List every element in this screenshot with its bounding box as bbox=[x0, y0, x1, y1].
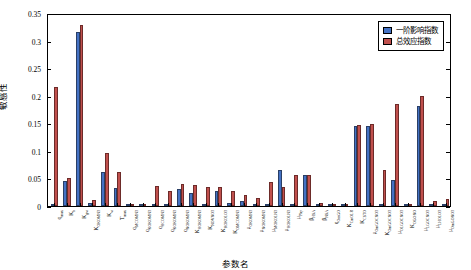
x-tick-label: μMOKOLN3 bbox=[270, 210, 278, 232]
x-tick-mark bbox=[218, 203, 219, 206]
x-tick-mark bbox=[105, 203, 106, 206]
bar-total-effect bbox=[117, 172, 121, 206]
x-tick-mark bbox=[370, 203, 371, 206]
x-tick-mark bbox=[420, 203, 421, 206]
x-tick-mark bbox=[244, 203, 245, 206]
x-tick-label: μOmGONO3 bbox=[447, 210, 455, 232]
y-tick-mark bbox=[47, 97, 51, 98]
legend-label-first-order: 一阶影响指数 bbox=[396, 25, 438, 36]
y-tick-mark bbox=[47, 152, 51, 153]
x-tick-label: qOmGO bbox=[333, 210, 341, 224]
x-tick-mark bbox=[80, 203, 81, 206]
bar-total-effect bbox=[54, 87, 58, 207]
x-tick-label: KNOVNO3 bbox=[207, 210, 215, 230]
y-tick-label: 0 bbox=[0, 203, 41, 212]
x-tick-mark bbox=[408, 203, 409, 206]
x-tick-mark bbox=[345, 203, 346, 206]
bar-total-effect bbox=[294, 175, 298, 206]
y-tick-mark-right bbox=[446, 69, 450, 70]
x-tick-mark bbox=[92, 203, 93, 206]
y-tick-label: 0.3 bbox=[0, 37, 41, 46]
x-tick-label: μLGOCNO3 bbox=[422, 210, 430, 231]
x-tick-label: KCmOLR bbox=[346, 210, 354, 227]
bar-total-effect bbox=[105, 153, 109, 206]
x-tick-label: μOKOMN3 bbox=[245, 210, 253, 229]
legend-label-total-effect: 总效应指数 bbox=[396, 36, 431, 47]
y-tick-mark bbox=[47, 42, 51, 43]
bar-total-effect bbox=[357, 125, 361, 206]
y-tick-label: 0.15 bbox=[0, 120, 41, 129]
x-tick-label: μHOKOLN3 bbox=[283, 210, 291, 231]
x-tick-mark bbox=[155, 203, 156, 206]
x-tick-label: qNOKOMN3 bbox=[182, 210, 190, 232]
y-tick-mark-right bbox=[446, 97, 450, 98]
y-tick-label: 0.25 bbox=[0, 65, 41, 74]
y-tick-mark-right bbox=[446, 42, 450, 43]
y-tick-mark bbox=[47, 207, 51, 208]
x-tick-mark bbox=[206, 203, 207, 206]
y-tick-mark bbox=[47, 124, 51, 125]
x-tick-label: qKOKOMN3 bbox=[169, 210, 177, 232]
x-tick-label: μOLGOCNO3 bbox=[396, 210, 404, 234]
x-tick-label: qHCOMN3 bbox=[157, 210, 165, 229]
x-tick-mark bbox=[332, 203, 333, 206]
x-tick-mark bbox=[446, 203, 447, 206]
x-tick-label: qmax bbox=[56, 210, 64, 219]
x-tick-label: KOMCOMN3 bbox=[232, 210, 240, 234]
y-tick-label: 0.1 bbox=[0, 147, 41, 156]
x-tick-mark bbox=[307, 203, 308, 206]
legend-swatch-first-order bbox=[383, 27, 392, 34]
x-tick-mark bbox=[433, 203, 434, 206]
y-tick-label: 0.35 bbox=[0, 10, 41, 19]
x-tick-mark bbox=[117, 203, 118, 206]
legend-swatch-total-effect bbox=[383, 38, 392, 45]
x-tick-label: KKOKOLO3 bbox=[220, 210, 228, 232]
plot-area: 一阶影响指数 总效应指数 bbox=[47, 14, 451, 207]
x-tick-label: βNSA bbox=[321, 210, 329, 221]
y-tick-mark-right bbox=[446, 124, 450, 125]
y-tick-mark bbox=[47, 14, 51, 15]
x-tick-label: Kgw bbox=[81, 210, 89, 219]
legend-item-total-effect: 总效应指数 bbox=[383, 36, 438, 47]
x-tick-mark bbox=[143, 203, 144, 206]
x-tick-label: KHOKOMN3 bbox=[194, 210, 202, 233]
y-tick-label: 0.05 bbox=[0, 175, 41, 184]
x-tick-mark bbox=[54, 203, 55, 206]
y-tick-mark bbox=[47, 179, 51, 180]
y-tick-mark-right bbox=[446, 14, 450, 15]
x-axis-label: 参数名 bbox=[0, 257, 471, 269]
x-tick-mark bbox=[395, 203, 396, 206]
x-tick-label: Kw bbox=[106, 210, 114, 217]
bar-total-effect bbox=[383, 170, 387, 206]
chart-legend: 一阶影响指数 总效应指数 bbox=[378, 21, 444, 51]
x-tick-mark bbox=[256, 203, 257, 206]
x-tick-label: KCSTO bbox=[359, 210, 367, 224]
x-tick-label: μPhy bbox=[295, 210, 303, 219]
x-tick-mark bbox=[181, 203, 182, 206]
x-tick-mark bbox=[269, 203, 270, 206]
x-tick-label: qMCOMN3 bbox=[131, 210, 139, 230]
bar-total-effect bbox=[80, 25, 84, 206]
x-tick-label: qKOKOMN3 bbox=[144, 210, 152, 232]
y-tick-mark bbox=[47, 69, 51, 70]
x-tick-mark bbox=[67, 203, 68, 206]
x-tick-label: KOmGOCNO3 bbox=[384, 210, 392, 235]
x-tick-label: βHSA bbox=[308, 210, 316, 221]
x-tick-label: Kb bbox=[68, 210, 76, 216]
x-tick-mark bbox=[282, 203, 283, 206]
x-tick-mark bbox=[357, 203, 358, 206]
x-tick-label: μOmGOCNO3 bbox=[371, 210, 379, 234]
y-tick-mark-right bbox=[446, 152, 450, 153]
bar-total-effect bbox=[395, 104, 399, 206]
y-tick-label: 0.2 bbox=[0, 92, 41, 101]
bar-total-effect bbox=[307, 175, 311, 206]
bar-total-effect bbox=[67, 178, 71, 206]
x-tick-mark bbox=[130, 203, 131, 206]
x-tick-mark bbox=[168, 203, 169, 206]
x-tick-label: KOKOMN3 bbox=[93, 210, 101, 230]
bar-total-effect bbox=[420, 96, 424, 206]
legend-item-first-order: 一阶影响指数 bbox=[383, 25, 438, 36]
bar-total-effect bbox=[370, 124, 374, 206]
x-tick-mark bbox=[383, 203, 384, 206]
x-tick-mark bbox=[193, 203, 194, 206]
